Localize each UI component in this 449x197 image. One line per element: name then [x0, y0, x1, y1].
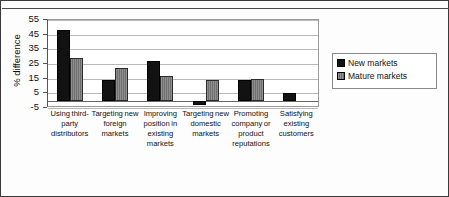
bar — [102, 80, 115, 101]
y-tick-label: 35 — [28, 43, 39, 52]
y-tick-label: -5 — [31, 102, 39, 111]
bar — [147, 61, 160, 101]
bar — [193, 101, 206, 105]
bar — [238, 80, 251, 101]
bar — [251, 79, 264, 101]
gridline — [48, 79, 318, 80]
y-tick-mark — [43, 107, 47, 108]
y-tick-label: 5 — [34, 87, 39, 96]
bar — [206, 80, 219, 101]
gridline — [48, 49, 318, 50]
bar — [70, 58, 83, 101]
chart-legend: New markets Mature markets — [332, 53, 437, 89]
zero-baseline — [48, 101, 318, 102]
x-axis-category-label: Satisfyingexistingcustomers — [270, 109, 323, 139]
y-tick-label: 25 — [28, 58, 39, 67]
y-axis-title: % difference — [11, 18, 22, 104]
y-tick-label: 45 — [28, 29, 39, 38]
y-tick-label: 15 — [28, 73, 39, 82]
x-axis-category-labels: Using third-partydistributorsTargeting n… — [47, 109, 319, 181]
legend-item-label: Mature markets — [348, 71, 407, 81]
dark-swatch-icon — [337, 59, 345, 67]
bar — [160, 76, 173, 101]
gridline — [48, 20, 318, 21]
bar — [115, 68, 128, 100]
top-divider-rule — [2, 8, 449, 9]
legend-item: New markets — [337, 58, 432, 68]
hatched-swatch-icon — [337, 72, 345, 80]
chart-frame: % difference -551525354555 Using third-p… — [0, 0, 449, 197]
legend-item-label: New markets — [348, 58, 398, 68]
y-axis: % difference -551525354555 — [1, 19, 47, 107]
y-tick-label: 55 — [28, 14, 39, 23]
bar — [57, 30, 70, 100]
bar — [283, 93, 296, 100]
legend-item: Mature markets — [337, 71, 432, 81]
gridline — [48, 93, 318, 94]
plot-area — [47, 19, 319, 107]
gridline — [48, 64, 318, 65]
gridline — [48, 35, 318, 36]
